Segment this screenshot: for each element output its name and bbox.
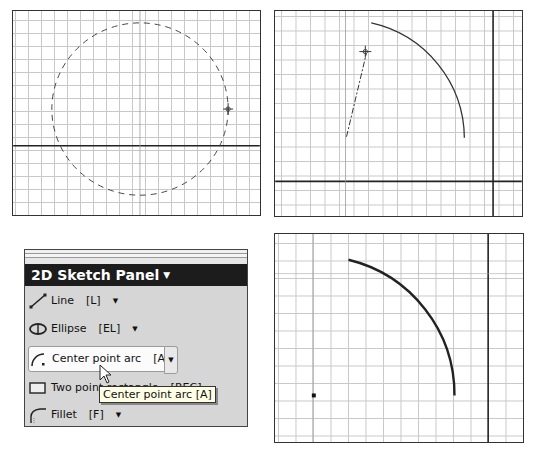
center-point-arc xyxy=(348,260,454,396)
radius-dash-dot-line xyxy=(347,54,367,137)
ellipse-icon xyxy=(28,321,48,337)
sketch-canvas xyxy=(13,11,260,215)
center-point-arc-icon xyxy=(29,351,49,367)
tool-label: Center point arc xyxy=(52,347,141,371)
tool-fillet[interactable]: Fillet [F] ▼ xyxy=(28,403,121,427)
arc-preview xyxy=(371,23,464,138)
panel-title: 2D Sketch Panel xyxy=(31,267,159,283)
chevron-down-icon[interactable]: ▼ xyxy=(164,346,178,374)
sketch-view-circle-preview[interactable] xyxy=(12,10,261,216)
crosshair-cursor-icon xyxy=(223,103,233,115)
sketch-canvas xyxy=(275,234,523,442)
crosshair-cursor-icon xyxy=(359,46,371,58)
tool-line[interactable]: Line [L] ▼ xyxy=(28,289,118,313)
panel-drag-grip[interactable] xyxy=(25,250,247,264)
tool-label: Ellipse xyxy=(51,317,87,341)
arc-center-point xyxy=(312,393,316,397)
tooltip: Center point arc [A] xyxy=(99,386,216,403)
line-icon xyxy=(28,293,48,309)
panel-title-bar[interactable]: 2D Sketch Panel▼ xyxy=(25,264,247,286)
rectangle-icon xyxy=(28,380,48,396)
fillet-icon xyxy=(28,407,48,423)
sketch-canvas xyxy=(275,11,522,216)
sketch-view-completed-arc[interactable] xyxy=(274,233,524,443)
chevron-down-icon: ▼ xyxy=(163,270,170,280)
sketch-view-arc-preview[interactable] xyxy=(274,10,523,217)
tool-label: Line xyxy=(51,289,74,313)
tool-shortcut: [L] xyxy=(86,289,101,313)
tool-shortcut: [F] xyxy=(89,403,104,427)
chevron-down-icon[interactable]: ▼ xyxy=(113,289,118,313)
chevron-down-icon[interactable]: ▼ xyxy=(116,403,121,427)
chevron-down-icon[interactable]: ▼ xyxy=(132,317,137,341)
tool-ellipse[interactable]: Ellipse [EL] ▼ xyxy=(28,317,138,341)
tool-label: Fillet xyxy=(51,403,77,427)
tool-shortcut: [EL] xyxy=(99,317,121,341)
mouse-pointer-icon xyxy=(99,364,115,386)
